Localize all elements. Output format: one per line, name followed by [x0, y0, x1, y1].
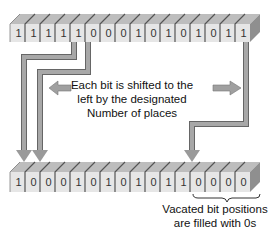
bit-value: 1 [60, 27, 66, 39]
bit-value: 0 [210, 176, 216, 188]
bit-value: 0 [120, 176, 126, 188]
bit-value: 0 [180, 27, 186, 39]
bit-value: 0 [105, 27, 111, 39]
arrowhead-icon [32, 150, 48, 162]
bit-value: 0 [150, 176, 156, 188]
vacated-line-1: Vacated bit positions [160, 202, 270, 216]
bit-value: 1 [15, 176, 21, 188]
bit-value: 0 [60, 176, 66, 188]
bit-value: 1 [30, 27, 36, 39]
bit-value: 1 [240, 27, 246, 39]
caption-line-1: Each bit is shifted to the [62, 78, 202, 92]
bit-value: 1 [75, 27, 81, 39]
bottom-bit-row: 1000101010110000 [10, 162, 260, 192]
top-bit-row: 1111100010101011 [10, 14, 260, 42]
vacated-line-2: are filled with 0s [160, 216, 270, 230]
bit-value: 0 [90, 176, 96, 188]
bit-value: 1 [45, 27, 51, 39]
bit-value: 0 [240, 176, 246, 188]
bit-value: 1 [75, 176, 81, 188]
right-arrow-icon [213, 81, 241, 95]
vacated-bits-caption: Vacated bit positions are filled with 0s [160, 202, 270, 230]
bit-value: 1 [165, 27, 171, 39]
bit-value: 1 [105, 176, 111, 188]
bit-value: 1 [165, 176, 171, 188]
bit-value: 0 [30, 176, 36, 188]
bit-value: 0 [195, 176, 201, 188]
bit-value: 1 [180, 176, 186, 188]
bit-value: 0 [120, 27, 126, 39]
bit-value: 1 [195, 27, 201, 39]
bit-value: 1 [15, 27, 21, 39]
bit-value: 0 [210, 27, 216, 39]
bit-value: 1 [135, 27, 141, 39]
caption-line-2: left by the designated [62, 92, 202, 106]
bit-value: 1 [135, 176, 141, 188]
shift-explanation-caption: Each bit is shifted to the left by the d… [62, 78, 202, 120]
caption-line-3: Number of places [62, 106, 202, 120]
bit-value: 0 [45, 176, 51, 188]
bit-value: 0 [225, 176, 231, 188]
arrowhead-icon [16, 150, 32, 162]
bit-value: 1 [225, 27, 231, 39]
curly-brace-icon [193, 194, 260, 202]
arrowhead-icon [184, 150, 200, 162]
bit-value: 0 [90, 27, 96, 39]
bit-value: 0 [150, 27, 156, 39]
